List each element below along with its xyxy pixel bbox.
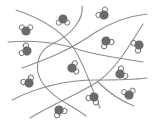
water-molecule xyxy=(95,6,112,23)
diagram-canvas xyxy=(0,0,159,130)
water-molecule xyxy=(121,88,136,101)
water-molecule xyxy=(19,25,33,36)
oxygen-atom xyxy=(21,26,30,35)
water-molecule xyxy=(130,37,146,54)
water-molecule xyxy=(98,34,115,50)
oxygen-atom xyxy=(98,9,111,22)
water-polymer-diagram xyxy=(0,0,159,130)
water-molecule xyxy=(20,74,37,90)
water-molecule xyxy=(56,14,70,25)
water-molecule xyxy=(66,60,79,75)
oxygen-atom xyxy=(58,14,67,23)
water-molecule xyxy=(18,42,34,59)
